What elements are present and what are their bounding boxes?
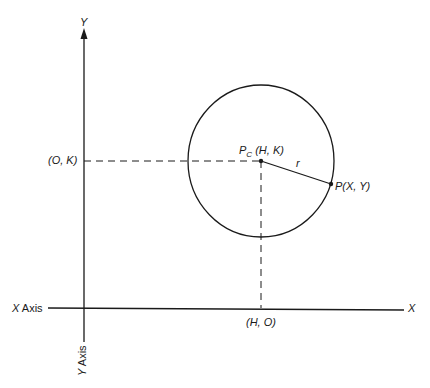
x-axis-label: X Axis bbox=[12, 303, 43, 314]
circumference-point bbox=[329, 182, 333, 186]
y-axis-arrow-icon bbox=[81, 28, 88, 39]
radius-label: r bbox=[296, 158, 300, 169]
center-label: PC (H, K) bbox=[239, 145, 284, 156]
diagram-canvas bbox=[0, 0, 430, 388]
x-end-label: X bbox=[408, 303, 415, 314]
circle-diagram: Y X X Axis Y Axis (O, K) (H, O) PC (H, K… bbox=[0, 0, 430, 388]
x-axis-line bbox=[48, 308, 404, 310]
center-point bbox=[259, 159, 263, 163]
y-axis-label: Y Axis bbox=[77, 345, 88, 376]
y-end-label: Y bbox=[80, 17, 87, 28]
point-label: P(X, Y) bbox=[335, 181, 370, 192]
y-intercept-label: (O, K) bbox=[48, 155, 77, 166]
x-intercept-label: (H, O) bbox=[246, 317, 276, 328]
